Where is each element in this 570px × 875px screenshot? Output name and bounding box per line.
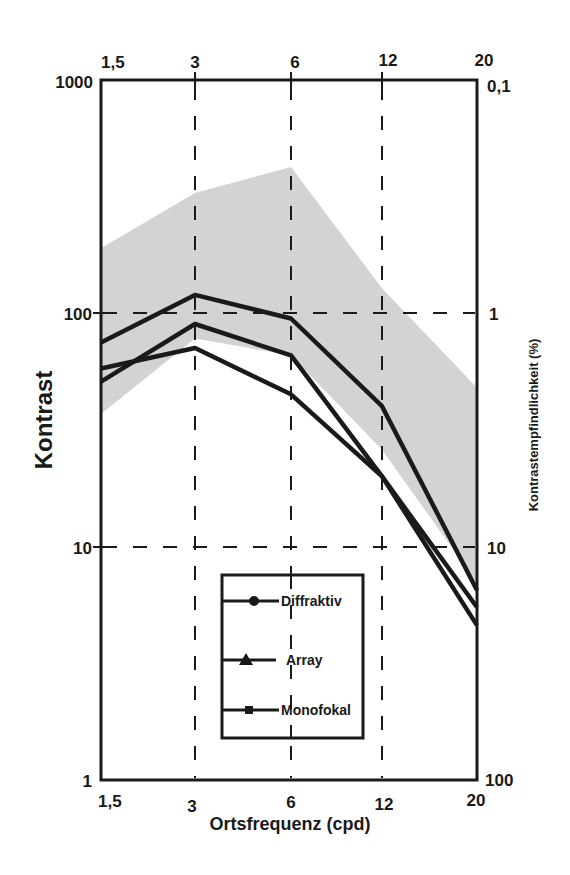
square-marker-icon [245, 706, 253, 714]
right-tick-1: 1 [489, 305, 498, 324]
y-axis-right-title: Kontrastempfindlichkeit (%) [526, 339, 541, 512]
bottom-axis-labels: 1,5 3 6 12 20 [98, 791, 485, 816]
normal-range-band [101, 167, 477, 583]
right-axis-labels: 0,1 1 10 100 [485, 77, 513, 790]
contrast-sensitivity-chart: 1,5 3 6 12 20 1000 100 10 1 0,1 1 10 100… [0, 0, 570, 875]
top-axis-labels: 1,5 3 6 12 20 [101, 51, 493, 72]
top-tick-12: 12 [379, 51, 398, 70]
bottom-tick-6: 6 [286, 793, 295, 812]
circle-marker-icon [249, 596, 259, 606]
top-tick-3: 3 [190, 53, 199, 72]
left-tick-1000: 1000 [55, 73, 93, 92]
left-tick-1: 1 [83, 772, 92, 791]
x-axis-title: Ortsfrequenz (cpd) [209, 814, 370, 834]
legend: Diffraktiv Array Monofokal [222, 575, 363, 738]
bottom-tick-12: 12 [375, 795, 394, 814]
left-tick-10: 10 [73, 539, 92, 558]
bottom-tick-3: 3 [187, 797, 196, 816]
right-tick-0-1: 0,1 [487, 77, 511, 96]
right-tick-10: 10 [487, 539, 506, 558]
legend-label-diffraktiv: Diffraktiv [281, 593, 342, 609]
top-tick-20: 20 [475, 51, 494, 70]
top-tick-6: 6 [290, 53, 299, 72]
right-tick-100: 100 [485, 771, 513, 790]
legend-label-array: Array [286, 652, 323, 668]
bottom-tick-1-5: 1,5 [98, 792, 122, 811]
y-axis-title: Kontrast [30, 371, 57, 470]
top-tick-1-5: 1,5 [101, 53, 125, 72]
left-tick-100: 100 [64, 305, 92, 324]
legend-label-monofokal: Monofokal [281, 702, 351, 718]
bottom-tick-20: 20 [467, 791, 486, 810]
left-axis-labels: 1000 100 10 1 [55, 73, 93, 791]
